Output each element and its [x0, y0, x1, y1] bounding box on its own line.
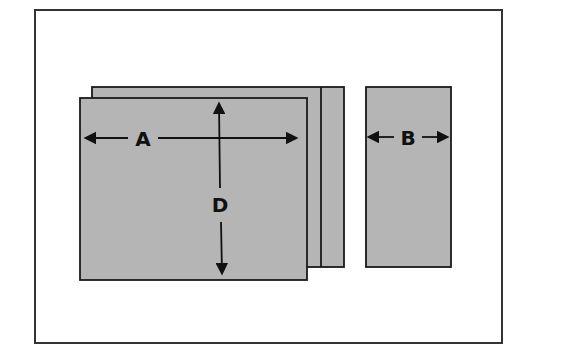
label-b: B [400, 126, 415, 150]
label-d: D [212, 193, 229, 217]
diagram-canvas: A D B [0, 0, 567, 347]
label-a: A [135, 127, 151, 151]
front-panel [80, 98, 307, 280]
side-panel [366, 87, 451, 267]
